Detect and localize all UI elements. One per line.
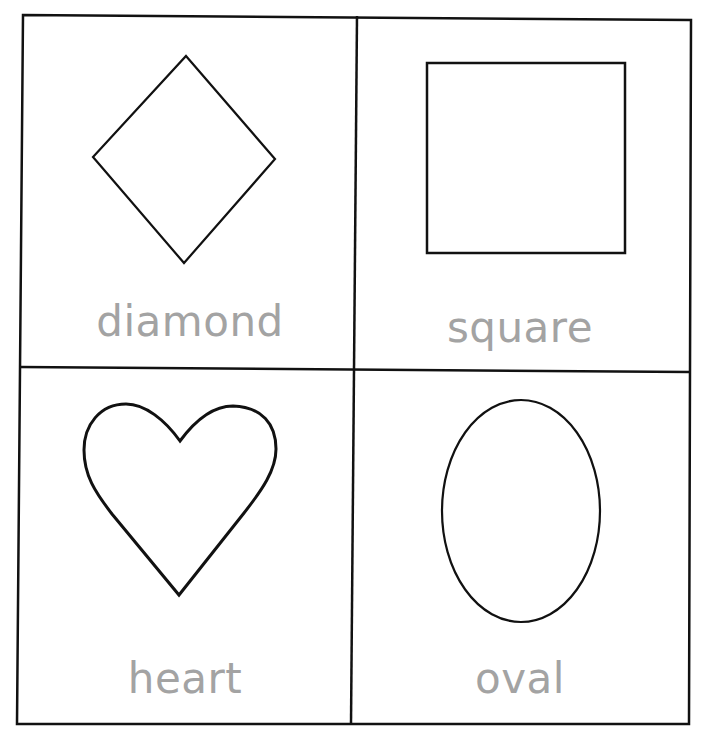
label-oval: oval (390, 653, 650, 705)
oval-shape (442, 400, 600, 622)
label-square: square (390, 302, 650, 354)
shapes-worksheet: diamond square heart oval (0, 0, 709, 734)
square-shape (427, 63, 625, 253)
label-diamond: diamond (60, 296, 320, 348)
grid-lines (17, 15, 691, 724)
label-heart: heart (55, 653, 315, 705)
diamond-shape (93, 56, 275, 263)
worksheet-grid (0, 0, 709, 734)
heart-shape (84, 404, 276, 595)
